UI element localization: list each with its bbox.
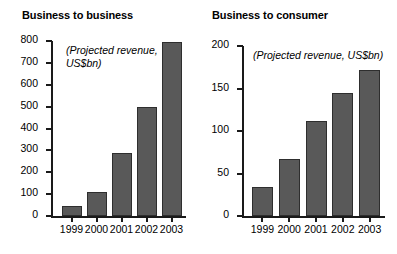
bar bbox=[62, 206, 82, 217]
x-axis-tick-label: 1999 bbox=[251, 223, 274, 236]
chart-page: Business to business 0100200300400500600… bbox=[0, 0, 397, 254]
x-axis-labels: 19992000200120022003 bbox=[52, 223, 184, 237]
y-axis-tick: 300 bbox=[46, 149, 52, 151]
y-axis-tick: 0 bbox=[237, 215, 243, 217]
x-axis-tick bbox=[342, 216, 344, 222]
x-axis-tick bbox=[261, 216, 263, 222]
y-axis-tick: 100 bbox=[237, 130, 243, 132]
bar bbox=[87, 192, 107, 217]
bar bbox=[332, 93, 353, 216]
chart-panel-business-to-business: Business to business 0100200300400500600… bbox=[0, 0, 198, 254]
x-axis-line bbox=[242, 216, 385, 218]
y-axis-tick: 400 bbox=[46, 128, 52, 130]
y-axis-tick-label: 50 bbox=[217, 166, 229, 178]
x-axis-tick-label: 2003 bbox=[358, 223, 381, 236]
y-axis-tick-label: 400 bbox=[20, 121, 38, 133]
y-axis-tick: 500 bbox=[46, 106, 52, 108]
y-axis-tick: 0 bbox=[46, 215, 52, 217]
y-axis-tick-label: 700 bbox=[20, 55, 38, 67]
y-axis-tick: 150 bbox=[237, 88, 243, 90]
y-axis-tick-label: 300 bbox=[20, 142, 38, 154]
y-axis-tick: 100 bbox=[46, 193, 52, 195]
y-axis-tick: 50 bbox=[237, 173, 243, 175]
y-axis-tick: 600 bbox=[46, 84, 52, 86]
x-axis-tick bbox=[171, 216, 173, 222]
x-axis-tick-label: 1999 bbox=[60, 223, 83, 236]
y-axis-tick: 200 bbox=[237, 45, 243, 47]
y-axis-tick-label: 150 bbox=[211, 81, 229, 93]
plot-area-right: 050100150200 19992000200120022003 bbox=[243, 46, 383, 216]
y-axis-tick: 800 bbox=[46, 40, 52, 42]
y-axis-tick-label: 0 bbox=[32, 208, 38, 220]
chart-annotation: (Projected revenue, US$bn) bbox=[253, 49, 397, 62]
y-axis-tick-label: 200 bbox=[211, 38, 229, 50]
bar bbox=[137, 107, 157, 216]
y-axis-tick-label: 100 bbox=[20, 186, 38, 198]
y-axis-tick-label: 600 bbox=[20, 77, 38, 89]
x-axis-tick-label: 2003 bbox=[160, 223, 183, 236]
x-axis-tick-label: 2002 bbox=[331, 223, 354, 236]
x-axis-tick bbox=[288, 216, 290, 222]
chart-title: Business to consumer bbox=[212, 9, 328, 21]
y-axis-tick: 200 bbox=[46, 171, 52, 173]
x-axis-tick bbox=[369, 216, 371, 222]
bar bbox=[252, 187, 273, 216]
y-axis-tick-label: 200 bbox=[20, 164, 38, 176]
x-axis-tick bbox=[121, 216, 123, 222]
bar bbox=[112, 153, 132, 216]
bar bbox=[279, 159, 300, 216]
x-axis-tick-label: 2001 bbox=[110, 223, 133, 236]
x-axis-labels: 19992000200120022003 bbox=[243, 223, 383, 237]
x-axis-tick bbox=[71, 216, 73, 222]
x-axis-tick bbox=[315, 216, 317, 222]
chart-annotation: (Projected revenue, US$bn) bbox=[66, 44, 181, 69]
x-axis-tick-label: 2000 bbox=[85, 223, 108, 236]
y-axis-tick: 700 bbox=[46, 62, 52, 64]
y-axis-tick-label: 100 bbox=[211, 123, 229, 135]
x-axis-tick-label: 2002 bbox=[135, 223, 158, 236]
y-axis-tick-label: 0 bbox=[223, 208, 229, 220]
x-axis-tick-label: 2000 bbox=[278, 223, 301, 236]
bar bbox=[359, 70, 380, 216]
x-axis-tick-label: 2001 bbox=[304, 223, 327, 236]
x-axis-tick bbox=[96, 216, 98, 222]
x-axis-tick bbox=[146, 216, 148, 222]
y-axis-tick-label: 800 bbox=[20, 33, 38, 45]
y-axis-tick-label: 500 bbox=[20, 99, 38, 111]
bar bbox=[306, 121, 327, 216]
chart-title: Business to business bbox=[22, 9, 133, 21]
chart-panel-business-to-consumer: Business to consumer 050100150200 199920… bbox=[199, 0, 397, 254]
